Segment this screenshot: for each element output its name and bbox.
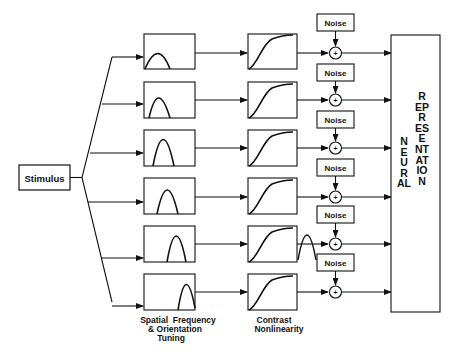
stray-tuning-curve (298, 235, 316, 260)
tuning-box-1 (144, 34, 195, 69)
noise-label-2: Noise (325, 69, 347, 78)
stimulus-label: Stimulus (24, 173, 64, 184)
channel-row-2: Noise + (144, 64, 391, 118)
svg-text:+: + (333, 50, 337, 57)
noise-label-3: Noise (325, 116, 347, 125)
svg-text:+: + (333, 241, 337, 248)
channel-row-3: Noise + (144, 111, 391, 166)
fan-out-lines (70, 57, 143, 306)
representation-word: REPRESENTATION (415, 91, 429, 186)
noise-label-5: Noise (325, 211, 347, 220)
diagram-canvas: Stimulus Noise + Noise (0, 0, 457, 356)
stimulus-node: Stimulus (19, 165, 70, 190)
tuning-box-2 (144, 82, 195, 118)
svg-text:+: + (333, 97, 337, 104)
noise-label-4: Noise (325, 164, 347, 173)
tuning-stage-label-line3: Tuning (157, 333, 185, 343)
tuning-box-4 (144, 178, 195, 214)
tuning-box-6 (144, 274, 195, 310)
noise-label-6: Noise (325, 259, 347, 268)
svg-text:+: + (333, 194, 337, 201)
contrast-stage-label-line2: Nonlinearity (254, 324, 303, 334)
channel-row-1: Noise + (144, 14, 391, 69)
svg-text:+: + (333, 145, 337, 152)
tuning-box-5 (144, 226, 195, 262)
noise-label-1: Noise (325, 19, 347, 28)
svg-text:+: + (333, 289, 337, 296)
neural-word: NEURAL (397, 136, 411, 189)
